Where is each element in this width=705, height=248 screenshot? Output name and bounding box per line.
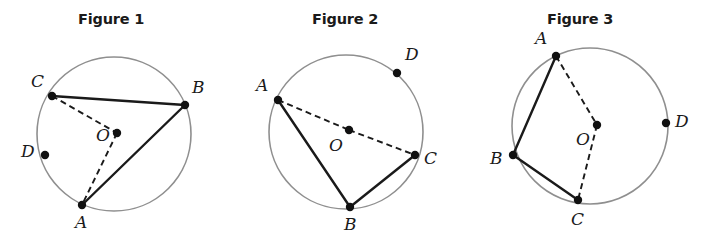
figure-1-label-d: D <box>21 143 35 160</box>
figure-2-label-a: A <box>256 77 268 94</box>
figure-3-title: Figure 3 <box>547 11 613 27</box>
figure-3-point-a <box>552 52 560 60</box>
figure-1-chord-BA <box>82 105 185 205</box>
figure-1-chord-CB <box>52 96 185 105</box>
figure-2-label-b: B <box>344 216 357 233</box>
figure-3-label-a: A <box>535 30 547 47</box>
figure-3-point-d <box>662 119 670 127</box>
figure-1-label-a: A <box>75 214 87 231</box>
figure-2-point-a <box>274 96 282 104</box>
figure-2-title: Figure 2 <box>312 11 378 27</box>
figure-2-label-c: C <box>424 150 437 167</box>
figure-2-point-o <box>345 126 353 134</box>
figure-3-point-c <box>574 196 582 204</box>
figure-1-point-a <box>78 201 86 209</box>
figure-1-point-b <box>181 101 189 109</box>
figure-3-group <box>509 48 670 204</box>
figure-1-title: Figure 1 <box>78 11 144 27</box>
figure-3-dashed-AO <box>556 56 597 125</box>
figure-3-circle <box>512 48 668 204</box>
figure-3-label-c: C <box>571 211 584 228</box>
figure-1-group <box>37 57 191 211</box>
figure-1-point-c <box>48 92 56 100</box>
figure-3-point-o <box>593 121 601 129</box>
figure-1-point-o <box>113 129 121 137</box>
figure-1-label-c: C <box>31 73 44 90</box>
circle-geometry-diagram <box>0 0 705 248</box>
figure-1-label-b: B <box>192 79 205 96</box>
figure-3-chord-BC <box>513 155 578 200</box>
figure-2-group <box>269 55 423 211</box>
figure-1-label-o: O <box>96 127 110 144</box>
figures-canvas: Figure 1 Figure 2 Figure 3 CBDAOADCBOABC… <box>0 0 705 248</box>
figure-2-point-d <box>393 69 401 77</box>
figure-2-point-c <box>411 151 419 159</box>
figure-3-label-d: D <box>675 113 689 130</box>
figure-3-point-b <box>509 151 517 159</box>
figure-2-label-d: D <box>405 46 419 63</box>
figure-2-point-b <box>346 203 354 211</box>
figure-2-label-o: O <box>329 137 343 154</box>
figure-2-dashed-OC <box>349 130 415 155</box>
figure-1-point-d <box>41 151 49 159</box>
figure-3-label-b: B <box>490 150 503 167</box>
figure-3-label-o: O <box>576 131 590 148</box>
